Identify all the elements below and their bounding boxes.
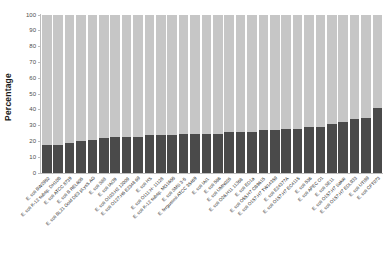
- bar: [281, 15, 291, 173]
- y-tick-label: 60: [29, 74, 36, 82]
- bar-segment-lower: [167, 135, 177, 173]
- bar-segment-upper: [350, 15, 360, 119]
- bar: [76, 15, 86, 173]
- bar: [65, 15, 75, 173]
- bar-segment-upper: [122, 15, 132, 137]
- bar-segment-upper: [293, 15, 303, 129]
- bar-segment-upper: [133, 15, 143, 137]
- bar-segment-upper: [99, 15, 109, 138]
- bar: [179, 15, 189, 173]
- bar-segment-upper: [88, 15, 98, 140]
- bar: [145, 15, 155, 173]
- bar: [88, 15, 98, 173]
- bar-segment-lower: [156, 135, 166, 173]
- bar-segment-lower: [327, 124, 337, 173]
- bar-segment-lower: [145, 135, 155, 173]
- bar-segment-lower: [88, 140, 98, 173]
- bar-segment-lower: [361, 118, 371, 173]
- bar-segment-lower: [373, 108, 383, 173]
- x-axis-tick-labels: E. coli BW2952E. coli K-12 subsp. DH10BE…: [41, 174, 383, 256]
- bar: [99, 15, 109, 173]
- bar-segment-upper: [156, 15, 166, 135]
- bar-segment-upper: [65, 15, 75, 143]
- bar: [202, 15, 212, 173]
- bar-segment-lower: [293, 129, 303, 173]
- bar-segment-lower: [42, 145, 52, 173]
- bar-segment-upper: [53, 15, 63, 145]
- bar: [224, 15, 234, 173]
- bar-segment-lower: [53, 145, 63, 173]
- bars-container: [41, 15, 383, 173]
- bar-segment-upper: [259, 15, 269, 130]
- bar-segment-lower: [99, 138, 109, 173]
- bar-segment-upper: [179, 15, 189, 134]
- y-tick-label: 90: [29, 26, 36, 34]
- bar-segment-lower: [179, 134, 189, 174]
- bar: [373, 15, 383, 173]
- bar-segment-lower: [259, 130, 269, 173]
- bar-segment-lower: [281, 129, 291, 173]
- bar-segment-upper: [281, 15, 291, 129]
- bar: [270, 15, 280, 173]
- y-tick-label: 50: [29, 90, 36, 98]
- bar-segment-upper: [110, 15, 120, 137]
- bar-segment-lower: [213, 134, 223, 174]
- y-tick-label: 70: [29, 58, 36, 66]
- bar-segment-lower: [304, 127, 314, 173]
- bar: [53, 15, 63, 173]
- bar: [190, 15, 200, 173]
- bar-segment-lower: [110, 137, 120, 173]
- bar: [213, 15, 223, 173]
- y-tick-label: 40: [29, 105, 36, 113]
- y-tick-label: 80: [29, 42, 36, 50]
- bar-segment-upper: [316, 15, 326, 127]
- bar-segment-upper: [167, 15, 177, 135]
- bar-segment-lower: [316, 127, 326, 173]
- bar-segment-lower: [65, 143, 75, 173]
- bar: [122, 15, 132, 173]
- bar-segment-upper: [76, 15, 86, 141]
- bar-segment-upper: [213, 15, 223, 134]
- bar-segment-lower: [133, 137, 143, 173]
- bar-segment-lower: [338, 122, 348, 173]
- bar: [293, 15, 303, 173]
- bar-segment-upper: [202, 15, 212, 134]
- y-axis-tick-labels: 0102030405060708090100: [0, 15, 40, 173]
- stacked-bar-chart: Percentage 0102030405060708090100 E. col…: [0, 0, 385, 256]
- bar-segment-upper: [42, 15, 52, 145]
- y-tick-label: 20: [29, 137, 36, 145]
- bar: [259, 15, 269, 173]
- bar-segment-lower: [202, 134, 212, 174]
- bar: [110, 15, 120, 173]
- y-tick-label: 30: [29, 121, 36, 129]
- bar-segment-upper: [327, 15, 337, 124]
- bar: [350, 15, 360, 173]
- bar: [361, 15, 371, 173]
- bar: [236, 15, 246, 173]
- bar-segment-upper: [145, 15, 155, 135]
- bar-segment-lower: [224, 132, 234, 173]
- bar-segment-upper: [361, 15, 371, 118]
- bar: [338, 15, 348, 173]
- bar-segment-lower: [236, 132, 246, 173]
- bar: [156, 15, 166, 173]
- bar: [316, 15, 326, 173]
- bar-segment-upper: [373, 15, 383, 108]
- bar-segment-lower: [76, 141, 86, 173]
- bar-segment-upper: [236, 15, 246, 132]
- bar-segment-upper: [190, 15, 200, 134]
- bar-segment-lower: [190, 134, 200, 174]
- bar: [327, 15, 337, 173]
- bar: [304, 15, 314, 173]
- bar-segment-upper: [224, 15, 234, 132]
- y-tick-label: 100: [26, 11, 36, 19]
- bar: [133, 15, 143, 173]
- y-tick-label: 0: [33, 169, 36, 177]
- bar-segment-lower: [247, 132, 257, 173]
- bar-segment-upper: [247, 15, 257, 132]
- bar-segment-lower: [350, 119, 360, 173]
- bar-segment-lower: [270, 130, 280, 173]
- bar-segment-upper: [304, 15, 314, 127]
- bar: [247, 15, 257, 173]
- bar-segment-lower: [122, 137, 132, 173]
